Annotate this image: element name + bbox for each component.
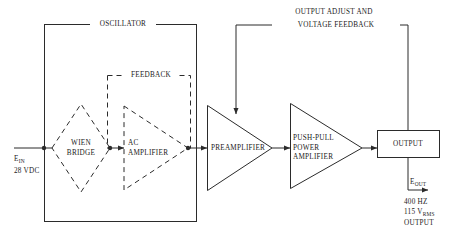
push-pull-label-line1: PUSH-PULL bbox=[293, 134, 353, 144]
ac-amplifier-label-line1: AC bbox=[128, 139, 184, 149]
diagram-vector-layer bbox=[0, 0, 456, 247]
output-spec: 400 HZ 115 VRMS OUTPUT bbox=[404, 198, 454, 229]
output-spec-line2: 115 VRMS bbox=[404, 208, 454, 220]
output-spec-line3: OUTPUT bbox=[404, 219, 454, 229]
ac-amplifier-label: AC AMPLIFIER bbox=[128, 139, 184, 158]
preamplifier-label: PREAMPLIFIER bbox=[211, 144, 273, 153]
feedback-section-label: FEEDBACK bbox=[123, 71, 179, 80]
input-symbol: EIN bbox=[14, 155, 54, 167]
wien-bridge-label: WIEN BRIDGE bbox=[60, 139, 102, 158]
output-block-label: OUTPUT bbox=[377, 140, 439, 149]
output-spec-line2-subscript: RMS bbox=[423, 211, 435, 217]
junction-dot-ac-amp-out bbox=[186, 146, 190, 150]
junction-dot-input bbox=[42, 146, 46, 150]
feedback-box bbox=[108, 76, 191, 149]
junction-dot-wien-out bbox=[108, 146, 112, 150]
oscillator-section-label: OSCILLATOR bbox=[90, 20, 156, 29]
oscillator-box bbox=[45, 25, 197, 222]
output-symbol: EOUT bbox=[410, 178, 454, 189]
output-spec-line1: 400 HZ bbox=[404, 198, 454, 208]
block-diagram-canvas: OSCILLATOR FEEDBACK WIEN BRIDGE AC AMPLI… bbox=[0, 0, 456, 247]
input-subscript: IN bbox=[19, 158, 25, 164]
output-subscript: OUT bbox=[415, 181, 427, 187]
wien-bridge-label-line2: BRIDGE bbox=[60, 149, 102, 159]
push-pull-amplifier-label: PUSH-PULL POWER AMPLIFIER bbox=[293, 134, 353, 163]
feedback-path-label-line1: OUTPUT ADJUST AND bbox=[272, 8, 396, 17]
push-pull-label-line2: POWER bbox=[293, 144, 353, 154]
wien-bridge-label-line1: WIEN bbox=[60, 139, 102, 149]
push-pull-label-line3: AMPLIFIER bbox=[293, 153, 353, 163]
input-annotation: EIN 28 VDC bbox=[14, 155, 54, 176]
ac-amplifier-label-line2: AMPLIFIER bbox=[128, 149, 184, 159]
feedback-path-label-line2: VOLTAGE FEEDBACK bbox=[272, 21, 400, 30]
input-spec: 28 VDC bbox=[14, 167, 54, 177]
